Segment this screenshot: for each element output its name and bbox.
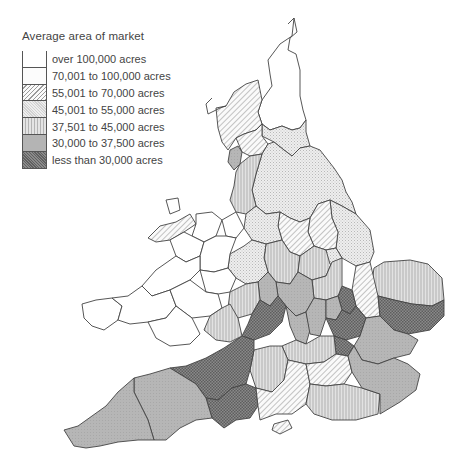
- swatch-grey: [22, 135, 47, 152]
- swatch-diagonal-hatch: [22, 85, 47, 102]
- legend-label: less than 30,000 acres: [52, 154, 163, 166]
- region-pembrokeshire: [82, 298, 122, 330]
- legend-label: 70,001 to 100,000 acres: [52, 70, 171, 82]
- legend-title: Average area of market: [22, 30, 171, 42]
- swatch-fine-dot: [22, 101, 47, 118]
- region-anglesey: [166, 198, 180, 214]
- legend-label: 55,001 to 70,000 acres: [52, 87, 165, 99]
- legend-item-over-100000: over 100,000 acres: [22, 51, 171, 68]
- legend: Average area of market over 100,000 acre…: [22, 30, 171, 169]
- swatch-vertical-stripes: [22, 118, 47, 135]
- legend-item-45001-55000: 45,001 to 55,000 acres: [22, 101, 171, 118]
- swatch-white: [22, 51, 47, 68]
- legend-item-30000-37500: 30,000 to 37,500 acres: [22, 135, 171, 152]
- swatch-near-white: [22, 68, 47, 85]
- legend-label: over 100,000 acres: [52, 53, 146, 65]
- legend-item-70001-100000: 70,001 to 100,000 acres: [22, 68, 171, 85]
- legend-label: 30,000 to 37,500 acres: [52, 137, 165, 149]
- region-radnorshire: [200, 268, 236, 294]
- legend-item-55001-70000: 55,001 to 70,000 acres: [22, 85, 171, 102]
- legend-item-less-30000: less than 30,000 acres: [22, 152, 171, 169]
- region-isle-of-wight: [272, 420, 292, 434]
- legend-label: 37,501 to 45,000 acres: [52, 121, 165, 133]
- legend-item-37501-45000: 37,501 to 45,000 acres: [22, 118, 171, 135]
- legend-label: 45,001 to 55,000 acres: [52, 104, 165, 116]
- swatch-crosshatch-dark: [22, 152, 47, 169]
- region-flintshire: [222, 212, 244, 238]
- region-northumberland: [258, 18, 306, 130]
